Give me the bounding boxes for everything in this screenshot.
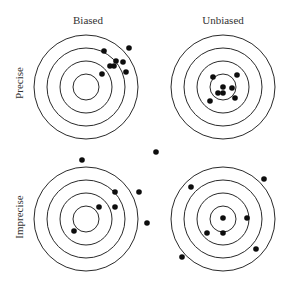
shot-dot [96, 204, 102, 210]
shot-dot [112, 189, 118, 195]
target-ring-1 [34, 167, 138, 271]
shot-dot [144, 220, 150, 226]
shot-dot [220, 84, 226, 90]
target-ring-4 [73, 74, 99, 100]
shot-dot [220, 215, 226, 221]
shot-dot [244, 215, 250, 221]
shot-dot [220, 90, 226, 96]
row-label-precise: Precise [13, 67, 25, 99]
shot-dot [120, 59, 126, 65]
shot-dot [207, 98, 213, 104]
shot-dot [99, 71, 105, 77]
shot-dot [112, 204, 118, 210]
shot-dot [71, 228, 77, 234]
shot-dot [215, 90, 221, 96]
shot-dot [210, 74, 216, 80]
row-label-imprecise: Imprecise [13, 195, 25, 238]
target-biased-precise [34, 35, 138, 139]
shot-dot [113, 58, 119, 64]
column-label-unbiased: Unbiased [202, 14, 244, 26]
target-biased-imprecise [34, 149, 159, 271]
shot-dot [123, 69, 129, 75]
shot-dot [261, 176, 267, 182]
target-ring-4 [73, 206, 99, 232]
target-ring-1 [34, 35, 138, 139]
shot-dot [79, 157, 85, 163]
shot-dot [232, 95, 238, 101]
shot-dot [234, 72, 240, 78]
shot-dot [179, 254, 185, 260]
targets-group [34, 35, 275, 271]
shot-dot [126, 45, 132, 51]
shot-dot [188, 184, 194, 190]
column-label-biased: Biased [73, 14, 103, 26]
shot-dot [204, 230, 210, 236]
shot-dot [111, 63, 117, 69]
shot-dot [253, 246, 259, 252]
shot-dot [220, 230, 226, 236]
shot-dot [136, 189, 142, 195]
target-unbiased-imprecise [171, 167, 275, 271]
target-unbiased-precise [171, 35, 275, 139]
shot-dot [229, 85, 235, 91]
bias-precision-diagram: Biased Unbiased Precise Imprecise [0, 0, 293, 282]
target-ring-3 [60, 193, 112, 245]
shot-dot [153, 149, 159, 155]
shot-dot [101, 48, 107, 54]
target-ring-3 [60, 61, 112, 113]
target-ring-2 [47, 48, 125, 126]
